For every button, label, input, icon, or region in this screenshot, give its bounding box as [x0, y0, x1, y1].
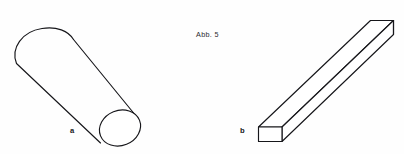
cylinder-near-end-face	[94, 104, 146, 152]
bar-side-face	[282, 21, 394, 142]
part-label-a: a	[70, 127, 74, 135]
technical-figure: Abb. 5 a b	[0, 0, 404, 154]
cylinder-part-a	[15, 28, 146, 152]
figure-caption: Abb. 5	[196, 31, 219, 38]
cylinder-far-cap-icon	[15, 28, 74, 64]
bar-top-face	[259, 21, 394, 128]
figure-drawing-canvas	[0, 0, 404, 154]
cylinder-lower-edge	[17, 64, 101, 144]
bar-part-b	[259, 21, 394, 142]
bar-near-end-face	[259, 127, 283, 142]
cylinder-upper-edge	[74, 40, 139, 120]
part-label-b: b	[240, 127, 245, 135]
